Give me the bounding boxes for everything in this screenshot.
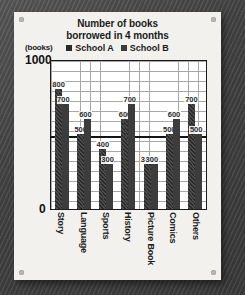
x-axis-label-text: Others: [191, 212, 201, 282]
x-axis-label-text: Language: [79, 212, 89, 282]
x-axis-label: Comics: [162, 212, 184, 282]
bar: 800: [55, 89, 62, 209]
bar: 500: [195, 134, 202, 209]
bar-group: 400300: [95, 61, 117, 209]
bar-group: 300300: [140, 61, 162, 209]
bar-group: 600700: [117, 61, 139, 209]
bar-series-container: 8007005006004003006007003003005006007005…: [51, 61, 206, 209]
x-axis-label: Language: [72, 212, 94, 282]
bar-value-label: 300: [101, 156, 115, 164]
chart-title-line-1: Number of books: [14, 18, 221, 30]
bar-group: 700500: [184, 61, 206, 209]
x-axis-label: Story: [50, 212, 72, 282]
bar-value-label: 400: [96, 141, 110, 149]
x-axis-label: Others: [185, 212, 207, 282]
bar-value-label: 500: [189, 126, 203, 134]
legend-label-school-b: School B: [130, 43, 169, 53]
x-axis-label-text: Comics: [168, 212, 178, 282]
bar-value-label: 300: [145, 156, 159, 164]
x-axis-labels: StoryLanguageSportsHistoryPicture BookCo…: [50, 212, 207, 282]
x-axis-label: Sports: [95, 212, 117, 282]
bar: 700: [128, 104, 135, 209]
bar: 300: [151, 164, 158, 209]
bar: 600: [121, 119, 128, 209]
x-axis-label: Picture Book: [140, 212, 162, 282]
x-axis-label-text: Sports: [101, 212, 111, 282]
chart-title-line-2: borrowed in 4 months: [14, 30, 221, 42]
bar: 700: [62, 104, 69, 209]
screw-dot-bottom-right: [211, 270, 216, 275]
x-axis-label-text: Picture Book: [146, 212, 156, 282]
y-axis-unit-label: (books): [25, 43, 53, 52]
bar: 700: [188, 104, 195, 209]
y-axis-tick-max: 1000: [25, 53, 52, 67]
bar: 600: [84, 119, 91, 209]
bar: 500: [77, 134, 84, 209]
plot-area: 8007005006004003006007003003005006007005…: [50, 60, 207, 210]
bar-group: 800700: [51, 61, 73, 209]
legend-swatch-school-a: [66, 45, 72, 51]
chart-card: Number of books borrowed in 4 months Sch…: [14, 12, 221, 280]
bar-value-label: 700: [123, 96, 137, 104]
x-axis-label-text: History: [123, 212, 133, 282]
bar-value-label: 700: [185, 96, 199, 104]
bar-group: 500600: [162, 61, 184, 209]
screw-dot-bottom-left: [19, 270, 24, 275]
x-axis-label: History: [117, 212, 139, 282]
bar-value-label: 600: [167, 111, 181, 119]
legend-item-school-a: School A: [66, 43, 114, 53]
chart-title: Number of books borrowed in 4 months: [14, 18, 221, 41]
bar-group: 500600: [73, 61, 95, 209]
bar: 300: [144, 164, 151, 209]
bar: 500: [166, 134, 173, 209]
bar: 600: [173, 119, 180, 209]
bar: 300: [106, 164, 113, 209]
legend-swatch-school-b: [121, 45, 127, 51]
y-axis-tick-zero: 0: [39, 202, 46, 216]
bar-value-label: 700: [57, 96, 71, 104]
bar-value-label: 600: [79, 111, 93, 119]
x-axis-label-text: Story: [56, 212, 66, 282]
bar-value-label: 800: [52, 81, 66, 89]
legend-item-school-b: School B: [121, 43, 169, 53]
legend-label-school-a: School A: [75, 43, 114, 53]
